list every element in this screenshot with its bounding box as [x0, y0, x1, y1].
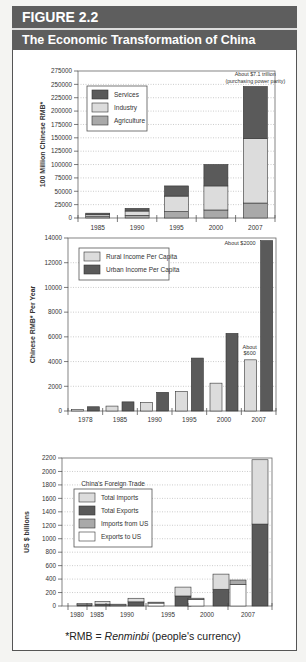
legend-entry: Total Imports [101, 494, 139, 502]
bar-segment-agriculture [125, 215, 149, 218]
bar-rural [71, 409, 83, 411]
legend-swatch [92, 116, 108, 125]
legend-entry: Total Exports [101, 507, 139, 515]
y-tick-label: 175000 [51, 121, 73, 128]
y-tick-label: 125000 [51, 147, 73, 154]
y-tick-label: 2000 [42, 468, 57, 475]
bar-urban [122, 402, 134, 411]
y-tick-label: 1200 [42, 522, 57, 529]
y-tick-label: 800 [45, 548, 56, 555]
bar-segment-services [125, 208, 149, 211]
x-tick-label: 1985 [113, 416, 128, 423]
bar-segment [213, 589, 229, 606]
legend-title: China's Foreign Trade [81, 480, 145, 488]
y-tick-label: 4000 [48, 358, 63, 365]
y-tick-label: 250000 [51, 81, 73, 88]
legend-swatch [79, 532, 95, 541]
bar-segment [252, 460, 268, 524]
x-tick-label: 2007 [251, 416, 266, 423]
bar-urban [191, 358, 203, 411]
y-tick-label: 25000 [54, 201, 72, 208]
x-tick-label: 1980 [70, 611, 85, 618]
legend-entry: Services [114, 91, 140, 98]
x-tick-label: 1990 [120, 611, 135, 618]
bar-segment [77, 603, 92, 604]
bar-segment [188, 598, 204, 599]
legend-entry: Urban Income Per Capita [106, 266, 180, 274]
y-tick-label: 1600 [42, 495, 57, 502]
y-tick-label: 14000 [44, 234, 62, 241]
bar-segment [188, 599, 204, 606]
legend-entry: Imports from US [101, 520, 149, 528]
bar-segment-services [204, 165, 228, 186]
bar-segment [128, 602, 144, 606]
x-tick-label: 1990 [147, 416, 162, 423]
x-tick-label: 1978 [78, 416, 93, 423]
x-tick-label: 1995 [182, 416, 197, 423]
bar-segment-industry [165, 196, 189, 212]
y-tick-label: 12000 [44, 259, 62, 266]
y-tick-label: 2000 [48, 383, 63, 390]
y-tick-label: 0 [68, 214, 72, 221]
y-tick-label: 1000 [42, 535, 57, 542]
bar-urban [157, 392, 169, 411]
y-tick-label: 8000 [48, 308, 63, 315]
x-tick-label: 2000 [200, 611, 215, 618]
y-tick-label: 600 [45, 562, 56, 569]
x-tick-label: 1985 [90, 611, 105, 618]
footnote-prefix: *RMB = [65, 630, 104, 642]
bar-segment [110, 604, 126, 605]
bar-segment [175, 587, 191, 596]
bar-rural [245, 360, 257, 411]
y-tick-label: 400 [45, 575, 56, 582]
y-tick-label: 225000 [51, 94, 73, 101]
bar-segment-industry [204, 186, 228, 210]
y-tick-label: 6000 [48, 333, 63, 340]
bar-segment-industry [125, 211, 149, 215]
y-tick-label: 200000 [51, 107, 73, 114]
y-axis-label: Chinese RMB* Per Year [29, 285, 36, 363]
annotation-urban: About $2000 [224, 240, 255, 246]
y-tick-label: 2200 [42, 454, 57, 461]
y-tick-label: 1400 [42, 508, 57, 515]
bar-rural [210, 383, 222, 411]
bar-segment [128, 598, 144, 602]
bar-segment [148, 602, 164, 603]
y-tick-label: 275000 [51, 67, 73, 74]
bar-segment [252, 524, 268, 606]
legend-entry: Agriculture [114, 117, 145, 125]
bar-urban [226, 333, 238, 411]
figure-label: FIGURE 2.2 [12, 6, 297, 28]
bar-rural [175, 392, 187, 411]
bar-urban [261, 241, 273, 411]
figure-title: The Economic Transformation of China [12, 30, 297, 50]
bar-segment-agriculture [243, 203, 267, 218]
annotation: (purchasing power parity) [225, 78, 285, 84]
x-tick-label: 2007 [241, 611, 256, 618]
legend-swatch [84, 265, 100, 274]
legend-swatch [79, 506, 95, 515]
bar-segment [230, 580, 246, 584]
y-tick-label: 10000 [44, 284, 62, 291]
legend-swatch [92, 90, 108, 99]
y-tick-label: 150000 [51, 134, 73, 141]
legend-entry: Exports to US [101, 533, 142, 541]
y-tick-label: 50000 [54, 188, 72, 195]
bar-segment [230, 584, 246, 606]
bar-segment-services [243, 87, 267, 139]
bar-rural [141, 403, 153, 411]
annotation-rural: About [242, 344, 257, 350]
footnote: *RMB = Renminbi (people's currency) [0, 630, 306, 642]
legend-swatch [92, 103, 108, 112]
y-tick-label: 200 [45, 589, 56, 596]
y-tick-label: 100000 [51, 161, 73, 168]
x-tick-label: 1995 [161, 611, 176, 618]
legend-swatch [79, 519, 95, 528]
footnote-term: Renminbi [105, 630, 149, 642]
chart-gdp-by-sector: 0250005000075000100000125000150000175000… [0, 60, 306, 240]
annotation-rural: $600 [244, 350, 256, 356]
bar-segment [213, 574, 229, 589]
chart-income-per-capita: 02000400060008000100001200014000Chinese … [0, 228, 306, 428]
legend-entry: Industry [114, 104, 138, 112]
y-tick-label: 1800 [42, 481, 57, 488]
